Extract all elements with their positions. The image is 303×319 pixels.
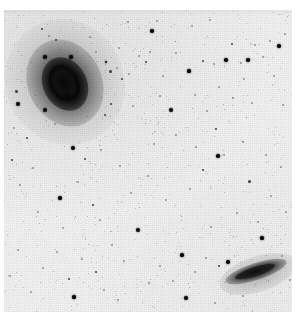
grain-speckle <box>86 66 87 67</box>
grain-speckle <box>121 202 122 203</box>
grain-speckle <box>172 117 173 118</box>
grain-speckle <box>174 24 175 25</box>
grain-speckle <box>269 76 270 77</box>
grain-speckle <box>281 14 282 15</box>
grain-speckle <box>250 15 251 16</box>
grain-speckle <box>225 179 226 180</box>
grain-speckle <box>279 209 280 210</box>
grain-speckle <box>57 227 58 228</box>
star-point-source <box>206 110 208 112</box>
grain-speckle <box>95 58 96 59</box>
grain-speckle <box>43 77 44 78</box>
grain-speckle <box>118 118 119 119</box>
star-point-source <box>223 154 225 156</box>
grain-speckle <box>232 105 233 106</box>
grain-speckle <box>135 67 136 68</box>
grain-speckle <box>204 132 205 133</box>
grain-speckle <box>153 14 154 15</box>
grain-speckle <box>118 203 119 204</box>
grain-speckle <box>279 134 280 135</box>
grain-speckle <box>167 167 168 168</box>
grain-speckle <box>127 211 128 212</box>
grain-speckle <box>100 176 101 177</box>
grain-speckle <box>149 167 150 168</box>
grain-speckle <box>122 10 123 11</box>
grain-speckle <box>266 255 267 256</box>
grain-speckle <box>194 180 195 181</box>
grain-speckle <box>90 49 91 50</box>
grain-speckle <box>122 201 123 202</box>
grain-speckle <box>188 27 189 28</box>
grain-speckle <box>291 207 292 208</box>
grain-speckle <box>15 114 16 115</box>
grain-speckle <box>46 81 47 82</box>
grain-speckle <box>6 208 7 209</box>
grain-speckle <box>280 68 281 69</box>
grain-speckle <box>248 219 249 220</box>
grain-speckle <box>9 175 10 176</box>
grain-speckle <box>113 68 114 69</box>
grain-speckle <box>134 184 135 185</box>
grain-speckle <box>253 204 254 205</box>
grain-speckle <box>14 44 15 45</box>
grain-speckle <box>211 33 212 34</box>
grain-speckle <box>59 49 60 50</box>
grain-speckle <box>128 27 129 28</box>
grain-speckle <box>135 48 136 49</box>
grain-speckle <box>238 255 239 256</box>
grain-speckle <box>213 37 214 38</box>
grain-speckle <box>218 281 219 282</box>
grain-speckle <box>177 110 178 111</box>
grain-speckle <box>143 123 144 124</box>
grain-speckle <box>152 306 153 307</box>
grain-speckle <box>253 59 254 60</box>
grain-speckle <box>127 227 128 228</box>
grain-speckle <box>247 95 248 96</box>
grain-speckle <box>167 266 168 267</box>
star-point-source <box>191 25 193 27</box>
grain-speckle <box>134 307 135 308</box>
grain-speckle <box>7 235 8 236</box>
grain-speckle <box>123 23 124 24</box>
grain-speckle <box>288 15 289 16</box>
grain-speckle <box>218 180 219 181</box>
grain-speckle <box>179 132 180 133</box>
grain-speckle <box>125 293 126 294</box>
grain-speckle <box>145 176 146 177</box>
grain-speckle <box>162 40 163 41</box>
grain-speckle <box>268 280 269 281</box>
grain-speckle <box>154 307 155 308</box>
grain-speckle <box>259 211 260 212</box>
grain-speckle <box>150 96 151 97</box>
grain-speckle <box>263 228 264 229</box>
star-point-source <box>242 295 244 297</box>
grain-speckle <box>260 150 261 151</box>
grain-speckle <box>236 208 237 209</box>
star-point-source <box>65 93 68 96</box>
grain-speckle <box>268 232 269 233</box>
grain-speckle <box>55 282 56 283</box>
grain-speckle <box>57 247 58 248</box>
grain-speckle <box>73 104 74 105</box>
grain-speckle <box>232 165 233 166</box>
grain-speckle <box>145 225 146 226</box>
grain-speckle <box>21 55 22 56</box>
grain-speckle <box>118 247 119 248</box>
grain-speckle <box>284 90 285 91</box>
grain-speckle <box>226 272 227 273</box>
grain-speckle <box>5 291 6 292</box>
grain-speckle <box>80 98 81 99</box>
grain-speckle <box>150 120 151 121</box>
grain-speckle <box>149 55 150 56</box>
grain-speckle <box>229 250 230 251</box>
grain-speckle <box>144 68 145 69</box>
star-point-source <box>62 227 64 229</box>
grain-speckle <box>91 37 92 38</box>
grain-speckle <box>87 216 88 217</box>
grain-speckle <box>190 14 191 15</box>
grain-speckle <box>117 139 118 140</box>
star-point-source <box>240 62 242 64</box>
grain-speckle <box>289 287 290 288</box>
grain-speckle <box>76 181 77 182</box>
grain-speckle <box>7 65 8 66</box>
